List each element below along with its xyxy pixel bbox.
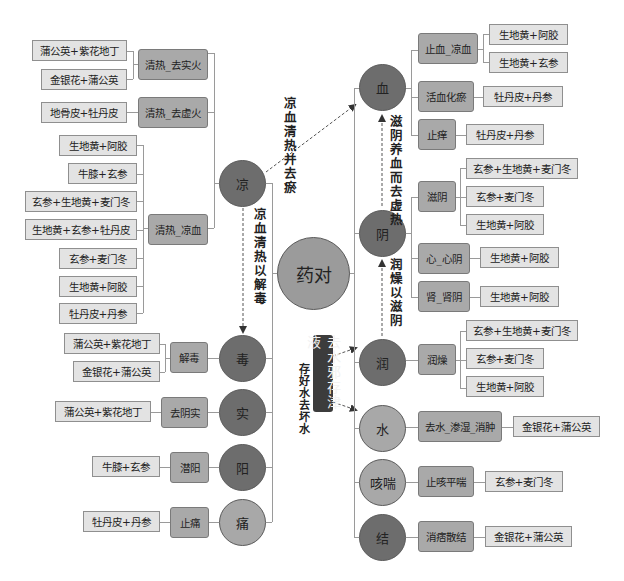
group-label: 肾_肾阴 — [426, 289, 461, 304]
connector — [133, 51, 134, 79]
leaf-item[interactable]: 金银花+蒲公英 — [73, 361, 160, 382]
banner-qushuixie: 去水邪存津液 — [313, 335, 333, 412]
node-label: 结 — [376, 528, 389, 547]
leaf-item[interactable]: 生地黄+阿胶 — [59, 276, 137, 297]
leaf-item[interactable]: 生地黄+阿胶 — [480, 247, 559, 268]
group-runzao[interactable]: 润燥 — [418, 344, 456, 375]
group-zhitong[interactable]: 止痛 — [170, 507, 209, 538]
leaf-label: 玄参+生地黄+麦门冬 — [473, 161, 571, 176]
leaf-item[interactable]: 玄参+生地黄+麦门冬 — [466, 158, 578, 179]
node-shui[interactable]: 水 — [359, 405, 406, 452]
node-xue[interactable]: 血 — [359, 64, 406, 111]
leaf-item[interactable]: 地骨皮+牡丹皮 — [41, 102, 127, 123]
group-zhiyang[interactable]: 止痒 — [418, 119, 456, 150]
node-kechuan[interactable]: 咳喘 — [359, 459, 406, 506]
leaf-label: 蒲公英+紫花地丁 — [40, 43, 119, 58]
group-zhike-pingchuan[interactable]: 止咳平喘 — [418, 466, 474, 497]
connector — [137, 230, 143, 231]
connector — [208, 358, 219, 359]
node-jie[interactable]: 结 — [359, 514, 406, 561]
leaf-label: 蒲公英+紫花地丁 — [73, 336, 152, 351]
annotation-liang-to-du: 凉血清热以解毒 — [251, 208, 265, 306]
group-shen-shenyin[interactable]: 肾_肾阴 — [418, 281, 470, 312]
group-xin-xinyin[interactable]: 心_心阴 — [418, 243, 470, 274]
leaf-item[interactable]: 生地黄+玄参 — [489, 52, 568, 73]
leaf-item[interactable]: 玄参+生地黄+麦门冬 — [466, 320, 578, 341]
leaf-item[interactable]: 蒲公英+紫花地丁 — [64, 333, 160, 354]
node-label: 阳 — [236, 458, 249, 477]
leaf-item[interactable]: 玄参+麦门冬 — [485, 471, 563, 492]
node-label: 凉 — [236, 174, 249, 193]
center-node[interactable]: 药对 — [277, 237, 350, 310]
leaf-item[interactable]: 金银花+蒲公英 — [41, 69, 127, 90]
node-run[interactable]: 润 — [359, 339, 406, 386]
node-du[interactable]: 毒 — [219, 335, 266, 382]
connector — [143, 228, 148, 229]
leaf-item[interactable]: 牛膝+玄参 — [92, 456, 160, 477]
leaf-item[interactable]: 蒲公英+紫花地丁 — [55, 401, 151, 422]
leaf-item[interactable]: 玄参+麦门冬 — [466, 348, 544, 369]
connector — [411, 97, 418, 98]
leaf-label: 玄参+生地黄+麦门冬 — [473, 323, 571, 338]
group-huoxue-huayu[interactable]: 活血化瘀 — [418, 81, 474, 112]
connector — [483, 34, 484, 62]
leaf-item[interactable]: 玄参+生地黄+麦门冬 — [25, 191, 137, 212]
group-qushui-shenshi-xiaozhong[interactable]: 去水_渗湿_消肿 — [418, 411, 502, 442]
leaf-item[interactable]: 生地黄+阿胶 — [489, 24, 568, 45]
connector — [214, 53, 215, 228]
group-label: 清热_凉血 — [155, 222, 200, 237]
leaf-label: 生地黄+阿胶 — [476, 379, 535, 394]
leaf-label: 金银花+蒲公英 — [50, 72, 119, 87]
leaf-item[interactable]: 生地黄+阿胶 — [480, 286, 559, 307]
node-shi[interactable]: 实 — [219, 389, 266, 436]
group-label: 滋阴 — [427, 189, 447, 204]
leaf-item[interactable]: 蒲公英+紫花地丁 — [32, 40, 127, 61]
node-tong[interactable]: 痛 — [219, 499, 266, 546]
leaf-item[interactable]: 牛膝+玄参 — [68, 163, 137, 184]
group-label: 心_心阴 — [426, 251, 461, 266]
leaf-item[interactable]: 生地黄+阿胶 — [59, 135, 137, 156]
connector — [411, 297, 418, 298]
leaf-item[interactable]: 玄参+麦门冬 — [59, 248, 137, 269]
connector — [411, 135, 418, 136]
leaf-label: 玄参+麦门冬 — [495, 474, 554, 489]
leaf-label: 生地黄+阿胶 — [476, 217, 535, 232]
group-qianyang[interactable]: 潜阳 — [170, 452, 209, 483]
connector — [137, 201, 143, 202]
connector — [411, 50, 412, 135]
leaf-item[interactable]: 生地黄+玄参+牡丹皮 — [25, 219, 137, 240]
leaf-item[interactable]: 牡丹皮+丹参 — [483, 86, 563, 107]
connector — [456, 135, 466, 136]
connector — [127, 112, 138, 113]
connector — [209, 522, 219, 523]
leaf-item[interactable]: 生地黄+阿胶 — [466, 376, 544, 397]
connector — [411, 258, 418, 259]
leaf-label: 生地黄+阿胶 — [490, 289, 549, 304]
connector — [165, 358, 170, 359]
connector — [266, 522, 272, 523]
leaf-item[interactable]: 牡丹皮+丹参 — [59, 303, 137, 324]
connector — [406, 482, 418, 483]
group-quyinshi[interactable]: 去阴实 — [161, 397, 208, 428]
node-liang[interactable]: 凉 — [219, 160, 266, 207]
group-xiaopi-sanjie[interactable]: 消痞散结 — [418, 521, 474, 552]
leaf-item[interactable]: 牡丹皮+丹参 — [466, 124, 544, 145]
leaf-label: 生地黄+阿胶 — [490, 250, 549, 265]
group-qingre-qushihuo[interactable]: 清热_去实火 — [138, 49, 208, 80]
leaf-item[interactable]: 生地黄+阿胶 — [466, 214, 544, 235]
node-yang[interactable]: 阳 — [219, 444, 266, 491]
leaf-item[interactable]: 牡丹皮+丹参 — [83, 511, 160, 532]
annotation-liang-to-xue: 凉血清热并去瘀 — [281, 97, 295, 195]
leaf-item[interactable]: 金银花+蒲公英 — [513, 416, 600, 437]
leaf-item[interactable]: 玄参+麦门冬 — [466, 186, 544, 207]
group-jiedu[interactable]: 解毒 — [170, 342, 208, 373]
leaf-label: 生地黄+阿胶 — [499, 27, 558, 42]
group-qingre-liangxue[interactable]: 清热_凉血 — [148, 214, 208, 245]
connector — [470, 297, 480, 298]
group-zhixue-liangxue[interactable]: 止血_凉血 — [418, 33, 478, 64]
group-ziyin[interactable]: 滋阴 — [418, 181, 456, 212]
group-label: 解毒 — [179, 350, 199, 365]
leaf-item[interactable]: 金银花+蒲公英 — [485, 526, 572, 547]
group-qingre-quxuhuo[interactable]: 清热_去虚火 — [138, 97, 208, 128]
connector — [266, 183, 272, 184]
